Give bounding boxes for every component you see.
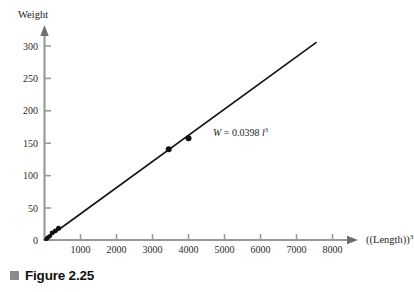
x-tick-label: 5000 xyxy=(215,244,235,255)
data-points-group xyxy=(45,135,192,241)
x-axis-title-exponent: 3 xyxy=(410,233,414,241)
data-point xyxy=(166,146,172,152)
x-tick-label: 1000 xyxy=(71,244,91,255)
equation-exponent: 3 xyxy=(265,126,268,133)
y-tick-label: 50 xyxy=(28,203,38,214)
x-tick-label: 2000 xyxy=(107,244,127,255)
x-tick-label: 8000 xyxy=(323,244,343,255)
x-axis-title: ((Length))3 xyxy=(366,233,414,246)
figure-caption-text: Figure 2.25 xyxy=(25,268,94,283)
fit-equation-annotation: W = 0.0398 l3 xyxy=(213,126,268,138)
y-axis-title: Weight xyxy=(18,9,48,20)
x-tick-label: 4000 xyxy=(179,244,199,255)
y-tick-label: 250 xyxy=(23,73,38,84)
x-axis-arrow-icon xyxy=(347,236,358,244)
x-tick-label: 3000 xyxy=(143,244,163,255)
figure-container: 50 100 150 200 250 300 0 1000 2000 3000 … xyxy=(0,0,414,292)
x-tick-label: 7000 xyxy=(287,244,307,255)
x-axis-title-text: (Length) xyxy=(370,234,407,246)
figure-caption: Figure 2.25 xyxy=(10,268,94,283)
y-tick-label: 300 xyxy=(23,41,38,52)
equation-coefficient: 0.0398 xyxy=(232,127,260,138)
data-point xyxy=(186,135,192,141)
y-axis-arrow-icon xyxy=(40,25,48,36)
origin-label: 0 xyxy=(33,235,38,246)
square-bullet-icon xyxy=(10,271,19,280)
data-point xyxy=(56,226,61,231)
y-tick-label: 100 xyxy=(23,170,38,181)
weight-vs-length-cubed-chart: 50 100 150 200 250 300 0 1000 2000 3000 … xyxy=(0,0,414,292)
regression-line xyxy=(45,43,317,240)
y-tick-label: 150 xyxy=(23,138,38,149)
x-tick-label: 6000 xyxy=(251,244,271,255)
y-tick-label: 200 xyxy=(23,105,38,116)
